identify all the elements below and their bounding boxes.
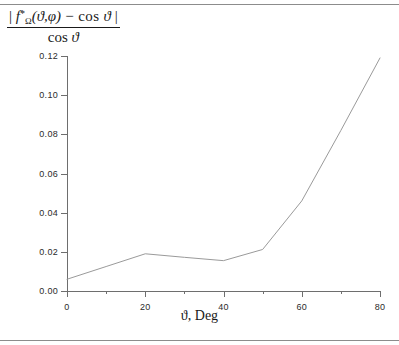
- theta-symbol-num: ϑ: [104, 8, 111, 24]
- series-relative-error: [67, 58, 380, 279]
- top-rule: [0, 4, 399, 5]
- y-tick-label: 0.12: [39, 51, 58, 61]
- abs-bar-close: |: [111, 8, 118, 24]
- y-tick-label: 0.02: [39, 247, 58, 257]
- y-tick-label: 0.06: [39, 169, 58, 179]
- cos-text: cos: [48, 29, 72, 45]
- plot-area: 0.000.020.040.060.080.100.12 020406080: [67, 56, 380, 291]
- x-tick-mark: [380, 291, 381, 297]
- fraction-numerator: | f*Ω(ϑ,φ) − cos ϑ |: [7, 9, 120, 28]
- abs-bar-open: |: [9, 8, 16, 24]
- x-tick-mark: [145, 291, 146, 297]
- x-tick-mark: [224, 291, 225, 297]
- minus-cos: − cos: [61, 8, 104, 24]
- x-tick-mark-minor: [263, 291, 264, 294]
- fraction-denominator: cos ϑ: [7, 28, 120, 46]
- x-tick-mark: [302, 291, 303, 297]
- y-axis-label: | f*Ω(ϑ,φ) − cos ϑ | cos ϑ: [7, 9, 120, 46]
- omega-subscript: Ω: [25, 16, 32, 26]
- x-tick-mark: [67, 291, 68, 297]
- function-arguments: (ϑ,φ): [32, 8, 61, 24]
- y-tick-label: 0.04: [39, 208, 58, 218]
- x-tick-mark-minor: [184, 291, 185, 294]
- x-tick-mark-minor: [106, 291, 107, 294]
- x-tick-mark-minor: [341, 291, 342, 294]
- y-axis-fraction: | f*Ω(ϑ,φ) − cos ϑ | cos ϑ: [7, 9, 120, 46]
- y-tick-label: 0.10: [39, 90, 58, 100]
- y-tick-label: 0.08: [39, 129, 58, 139]
- y-tick-label: 0.00: [39, 286, 58, 296]
- bottom-rule: [0, 340, 399, 341]
- data-line-chart: [67, 56, 380, 291]
- figure-page: | f*Ω(ϑ,φ) − cos ϑ | cos ϑ 0.000.020.040…: [0, 0, 399, 345]
- theta-symbol-den: ϑ: [72, 29, 79, 45]
- x-axis-label: ϑ, Deg: [0, 308, 399, 324]
